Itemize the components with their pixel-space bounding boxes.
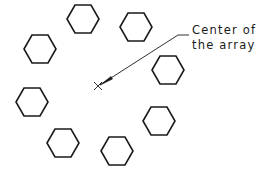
hexagon-icon (152, 56, 184, 84)
hexagon-icon (16, 88, 48, 116)
annotation-line-1: Center of (192, 23, 256, 37)
hexagon-icon (143, 107, 175, 135)
hexagon-icon (67, 5, 99, 33)
hexagon-icon (120, 13, 152, 41)
center-marker (94, 82, 102, 90)
hexagon-icon (24, 35, 56, 63)
leader-callout (100, 35, 189, 85)
annotation-line-2: the array (192, 38, 255, 52)
polar-array-diagram: Center of the array (0, 0, 267, 172)
leader-line (100, 35, 189, 85)
hexagon-icon (101, 137, 133, 165)
hexagon-icon (47, 129, 79, 157)
